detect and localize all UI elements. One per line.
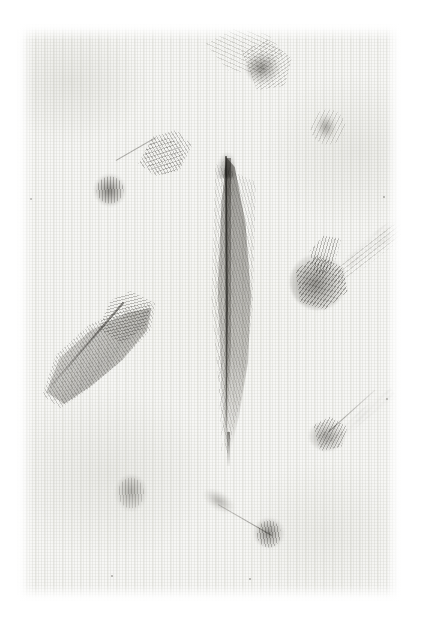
paper-plate bbox=[17, 24, 401, 601]
plate-edge-falloff bbox=[17, 24, 401, 601]
feather-specimen-image bbox=[0, 0, 429, 624]
